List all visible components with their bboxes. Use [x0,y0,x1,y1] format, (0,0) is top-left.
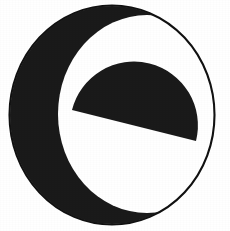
logo-mark: Crescent and Half-Disc Emblem A thin out… [0,0,230,231]
logo-canvas: Crescent and Half-Disc Emblem A thin out… [0,0,230,231]
